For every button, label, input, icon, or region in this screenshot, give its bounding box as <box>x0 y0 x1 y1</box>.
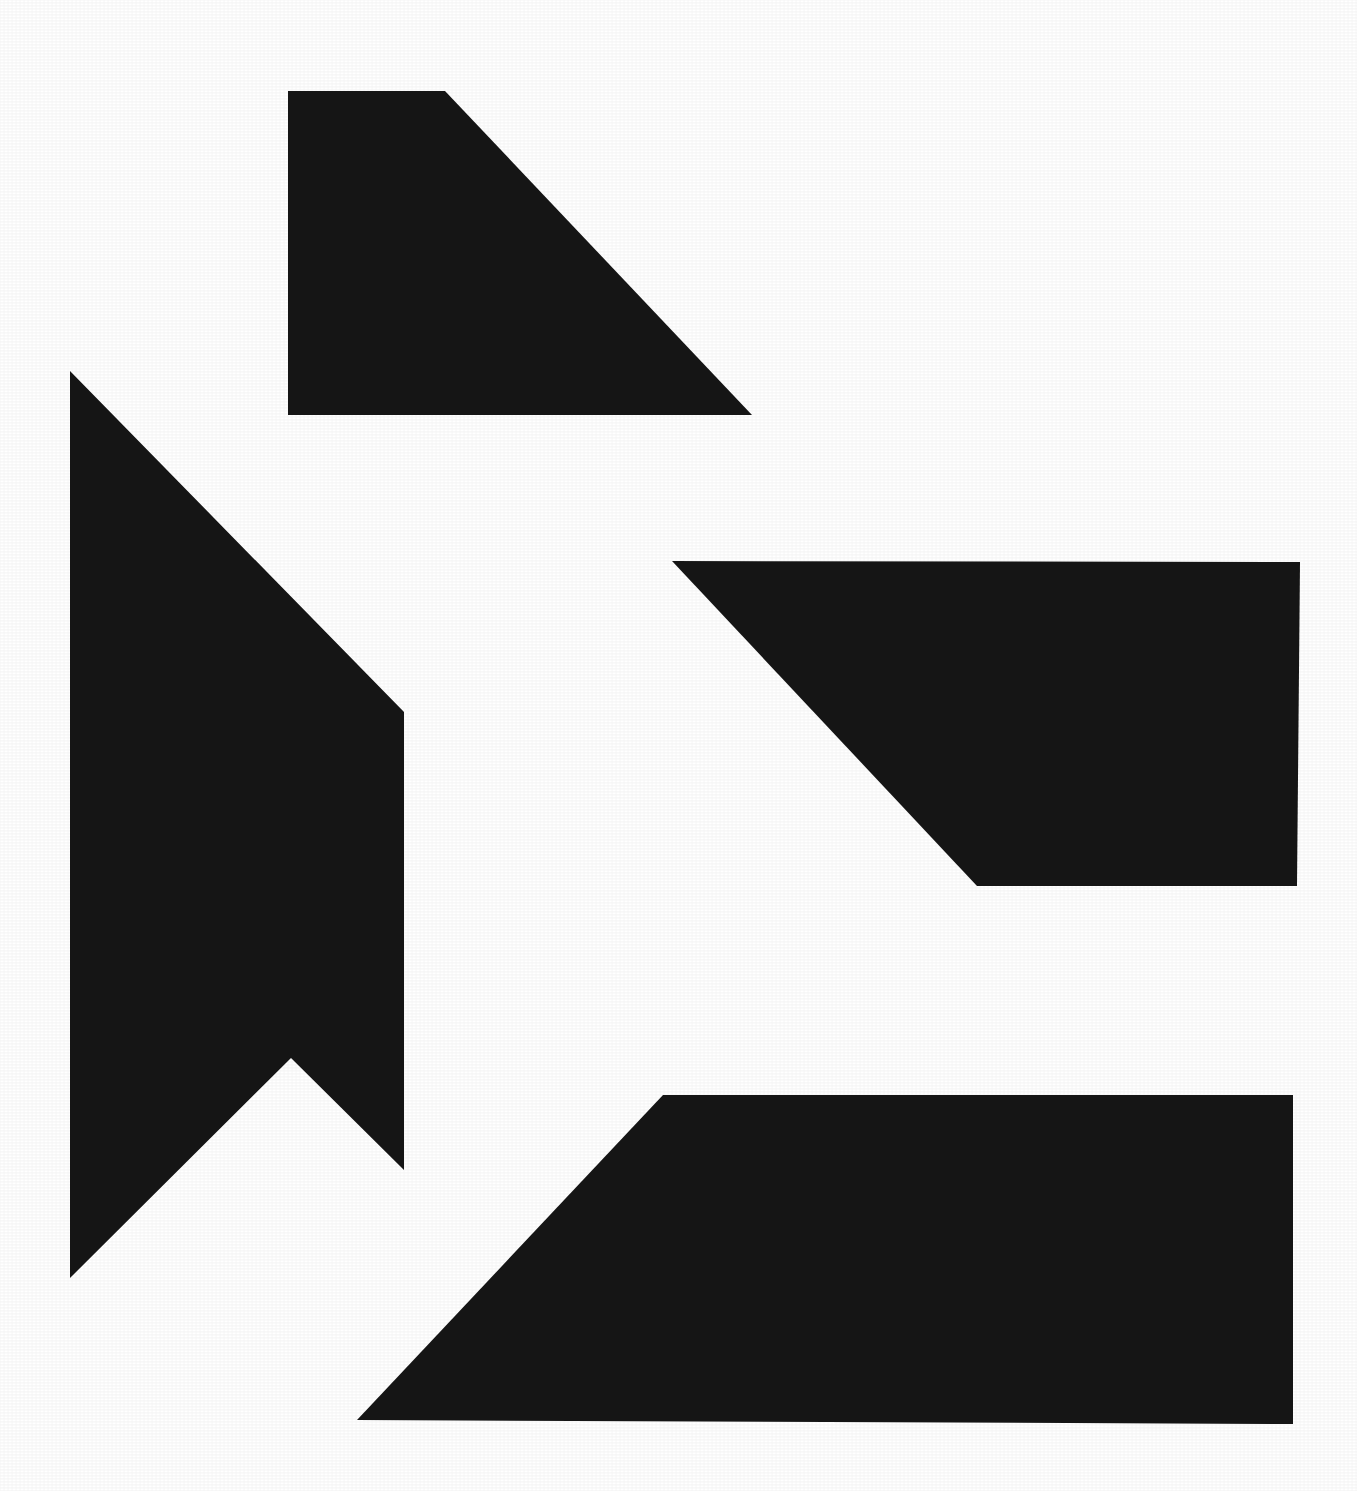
composition-canvas <box>0 0 1357 1491</box>
artboard <box>0 0 1357 1491</box>
